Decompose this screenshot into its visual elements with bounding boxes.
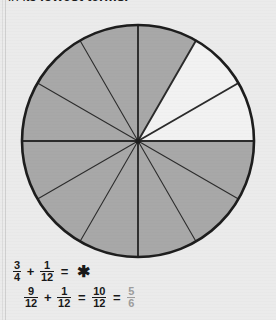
fraction-denominator: 12	[24, 297, 38, 309]
fraction-numerator: 5	[127, 286, 135, 297]
fraction-ten-twelfths: 10 12	[92, 286, 106, 309]
fraction-denominator: 4	[13, 271, 21, 283]
fraction-denominator: 6	[127, 297, 135, 309]
fraction-five-sixths-simplified: 5 6	[127, 286, 135, 309]
plus-operator: +	[44, 290, 52, 305]
pie-center-dot	[135, 138, 140, 143]
equation-block: 3 4 + 1 12 = ✱ 9 12 + 1 12 = 10 12 = 5 6	[0, 258, 276, 320]
instruction-heading-emphasis: lowest terms.	[40, 0, 128, 4]
fraction-numerator: 3	[13, 260, 21, 271]
answer-placeholder-asterisk: ✱	[77, 264, 90, 280]
fraction-numerator: 1	[40, 260, 54, 271]
fraction-denominator: 12	[40, 271, 54, 283]
fraction-circle-svg	[20, 23, 257, 260]
instruction-heading: in its lowest terms.	[0, 0, 276, 14]
equals-operator-first: =	[78, 290, 86, 305]
equals-operator: =	[61, 264, 69, 279]
fraction-numerator: 10	[92, 286, 106, 297]
instruction-heading-text: in its lowest terms.	[8, 0, 128, 3]
fraction-numerator: 9	[24, 286, 38, 297]
plus-operator: +	[27, 264, 35, 279]
instruction-heading-prefix: in its	[8, 0, 40, 4]
fraction-circle-figure	[20, 23, 257, 260]
fraction-denominator: 12	[92, 297, 106, 309]
fraction-one-twelfth: 1 12	[57, 286, 71, 309]
fraction-three-quarters: 3 4	[13, 260, 21, 283]
fraction-nine-twelfths: 9 12	[24, 286, 38, 309]
fraction-denominator: 12	[57, 297, 71, 309]
equation-line-1: 3 4 + 1 12 = ✱	[12, 260, 90, 283]
equation-line-2: 9 12 + 1 12 = 10 12 = 5 6	[23, 286, 136, 309]
fraction-one-twelfth: 1 12	[40, 260, 54, 283]
equals-operator-second: =	[113, 290, 121, 305]
fraction-numerator: 1	[57, 286, 71, 297]
